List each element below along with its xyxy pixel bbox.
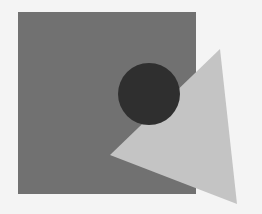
circle-shape [118,63,180,125]
shapes-canvas [0,0,262,214]
